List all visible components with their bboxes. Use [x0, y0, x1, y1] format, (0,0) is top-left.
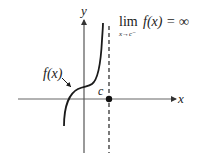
limit-expression: f(x) = ∞ [143, 14, 189, 30]
c-label: c [98, 84, 104, 98]
x-axis-label: x [177, 91, 184, 106]
limit-diagram: y x f(x) c lim x→c⁻ f(x) = ∞ [0, 0, 203, 165]
point-c [106, 96, 112, 102]
limit-lim: lim [119, 14, 138, 29]
y-axis-label: y [79, 3, 87, 18]
limit-subscript: x→c⁻ [118, 30, 136, 38]
function-label: f(x) [43, 66, 63, 82]
